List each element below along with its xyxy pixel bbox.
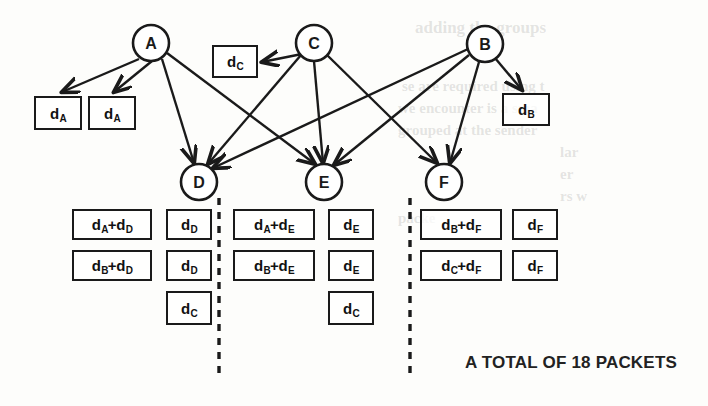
packet-box-0-term-2: dD bbox=[116, 217, 132, 232]
packet-box[interactable]: dA+dE bbox=[233, 209, 315, 240]
packet-box-8-term-1: dE bbox=[343, 258, 358, 273]
packet-box-11-subscript-1: F bbox=[537, 224, 543, 235]
node-F[interactable]: F bbox=[426, 164, 462, 200]
packet-box-3-subscript-1: D bbox=[190, 265, 197, 276]
packet-box-13-subscript-1: F bbox=[537, 265, 543, 276]
edge-B-to-E bbox=[334, 55, 469, 165]
packet-box-10-term-1: dB bbox=[441, 217, 457, 232]
edge-B-to-box-dB bbox=[495, 58, 522, 90]
packet-box-2-plus-sign: + bbox=[108, 258, 117, 273]
edge-A-to-D bbox=[162, 59, 194, 163]
packet-box-7-term-1: dB bbox=[254, 258, 270, 273]
packet-box-0-plus-sign: + bbox=[108, 217, 117, 232]
box-dC-subscript-1: C bbox=[236, 61, 243, 72]
packet-box[interactable]: dF bbox=[512, 250, 558, 281]
node-label-E: E bbox=[319, 174, 330, 191]
packet-box[interactable]: dC bbox=[166, 291, 212, 325]
packet-box-12-subscript-1: C bbox=[451, 265, 458, 276]
packet-box-8-subscript-1: E bbox=[353, 265, 359, 276]
box-dB-subscript-1: B bbox=[527, 109, 534, 120]
edge-B-to-F bbox=[450, 62, 479, 163]
packet-box-5-subscript-1: A bbox=[263, 224, 270, 235]
packet-box-6-subscript-1: E bbox=[353, 224, 359, 235]
packet-box-1-term-1: dD bbox=[181, 217, 197, 232]
packet-box-0-subscript-1: A bbox=[101, 224, 108, 235]
packet-box-5-plus-sign: + bbox=[270, 217, 279, 232]
node-A[interactable]: A bbox=[133, 25, 169, 61]
box-dA-2[interactable]: dA bbox=[88, 96, 136, 130]
box-dC[interactable]: dC bbox=[212, 45, 258, 78]
packet-box-10-subscript-1: B bbox=[451, 224, 458, 235]
node-B[interactable]: B bbox=[467, 26, 503, 62]
packet-box-7-term-2: dE bbox=[279, 258, 294, 273]
edge-A-to-box-dA-2 bbox=[114, 61, 152, 92]
packet-box[interactable]: dD bbox=[166, 250, 212, 281]
box-dA-1-term-1: dA bbox=[50, 106, 66, 121]
node-label-F: F bbox=[439, 174, 449, 191]
packet-box-5-subscript-2: E bbox=[288, 224, 294, 235]
box-dC-term-1: dC bbox=[227, 54, 243, 69]
packet-box-12-subscript-2: F bbox=[475, 265, 481, 276]
box-dA-1[interactable]: dA bbox=[34, 96, 82, 130]
packet-box-1-subscript-1: D bbox=[190, 224, 197, 235]
packet-box-2-subscript-2: D bbox=[126, 265, 133, 276]
node-label-D: D bbox=[193, 174, 205, 191]
packet-box-7-subscript-1: B bbox=[263, 265, 270, 276]
packet-box-10-term-2: dF bbox=[466, 217, 481, 232]
packet-box-7-subscript-2: E bbox=[288, 265, 294, 276]
packet-box[interactable]: dB+dF bbox=[420, 209, 502, 240]
node-D[interactable]: D bbox=[181, 164, 217, 200]
edge-A-to-box-dA-1 bbox=[62, 59, 139, 92]
packet-box-2-term-2: dD bbox=[116, 258, 132, 273]
packet-box-12-term-1: dC bbox=[441, 258, 457, 273]
box-dA-2-subscript-1: A bbox=[113, 113, 120, 124]
packet-box-5-term-1: dA bbox=[254, 217, 270, 232]
node-label-A: A bbox=[145, 35, 157, 52]
packet-box-12-term-2: dF bbox=[466, 258, 481, 273]
packet-box-2-subscript-1: B bbox=[101, 265, 108, 276]
packet-box[interactable]: dE bbox=[328, 209, 374, 240]
box-dA-2-term-1: dA bbox=[104, 106, 120, 121]
packet-box-13-term-1: dF bbox=[528, 258, 543, 273]
packet-box-10-plus-sign: + bbox=[457, 217, 466, 232]
node-E[interactable]: E bbox=[306, 164, 342, 200]
packet-box-7-plus-sign: + bbox=[270, 258, 279, 273]
packet-box-9-term-1: dC bbox=[343, 301, 359, 316]
packet-box-9-subscript-1: C bbox=[352, 308, 359, 319]
packet-box-6-term-1: dE bbox=[343, 217, 358, 232]
packet-box[interactable]: dC+dF bbox=[420, 250, 502, 281]
total-packets-label: A TOTAL OF 18 PACKETS bbox=[465, 353, 677, 373]
packet-box[interactable]: dF bbox=[512, 209, 558, 240]
packet-box-11-term-1: dF bbox=[528, 217, 543, 232]
node-label-B: B bbox=[479, 36, 491, 53]
packet-box-0-term-1: dA bbox=[92, 217, 108, 232]
packet-box-10-subscript-2: F bbox=[475, 224, 481, 235]
box-dB[interactable]: dB bbox=[502, 93, 550, 126]
packet-box[interactable]: dB+dD bbox=[72, 250, 152, 281]
diagram-page: adding the groupsse are required using t… bbox=[0, 0, 708, 406]
packet-box-0-subscript-2: D bbox=[126, 224, 133, 235]
packet-box[interactable]: dC bbox=[328, 291, 374, 325]
packet-box[interactable]: dD bbox=[166, 209, 212, 240]
packet-box-5-term-2: dE bbox=[279, 217, 294, 232]
box-dA-1-subscript-1: A bbox=[59, 113, 66, 124]
packet-box-3-term-1: dD bbox=[181, 258, 197, 273]
packet-box-4-subscript-1: C bbox=[190, 308, 197, 319]
packet-box[interactable]: dE bbox=[328, 250, 374, 281]
packet-box-4-term-1: dC bbox=[181, 301, 197, 316]
diagram-canvas: ACBDEF bbox=[0, 0, 708, 406]
packet-box-12-plus-sign: + bbox=[457, 258, 466, 273]
edge-C-to-E bbox=[314, 61, 323, 163]
packet-box[interactable]: dA+dD bbox=[72, 209, 152, 240]
packet-box-2-term-1: dB bbox=[92, 258, 108, 273]
packet-box[interactable]: dB+dE bbox=[233, 250, 315, 281]
node-C[interactable]: C bbox=[296, 25, 332, 61]
box-dB-term-1: dB bbox=[518, 102, 534, 117]
node-label-C: C bbox=[308, 35, 320, 52]
